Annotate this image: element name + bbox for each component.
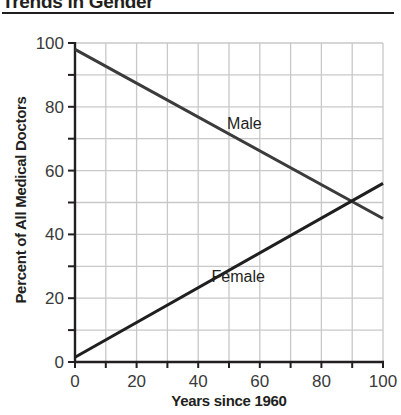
gridlines xyxy=(75,43,383,362)
x-tick-label: 40 xyxy=(189,372,208,391)
x-tick-label: 20 xyxy=(127,372,146,391)
x-tick-label: 100 xyxy=(369,372,397,391)
y-tick-label: 40 xyxy=(45,225,64,244)
axes xyxy=(68,42,384,368)
y-tick-label: 80 xyxy=(45,98,64,117)
x-tick-label: 80 xyxy=(312,372,331,391)
series-label-female: Female xyxy=(212,268,265,285)
x-axis-label: Years since 1960 xyxy=(171,392,286,409)
series-label-male: Male xyxy=(227,115,262,132)
y-axis-label: Percent of All Medical Doctors xyxy=(12,96,29,303)
line-chart: 020406080100020406080100 MaleFemale xyxy=(0,0,401,415)
tick-labels: 020406080100020406080100 xyxy=(36,34,398,391)
y-tick-label: 20 xyxy=(45,289,64,308)
y-tick-label: 60 xyxy=(45,162,64,181)
y-tick-label: 0 xyxy=(55,353,64,372)
x-tick-label: 0 xyxy=(70,372,79,391)
x-tick-label: 60 xyxy=(250,372,269,391)
y-tick-label: 100 xyxy=(36,34,64,53)
